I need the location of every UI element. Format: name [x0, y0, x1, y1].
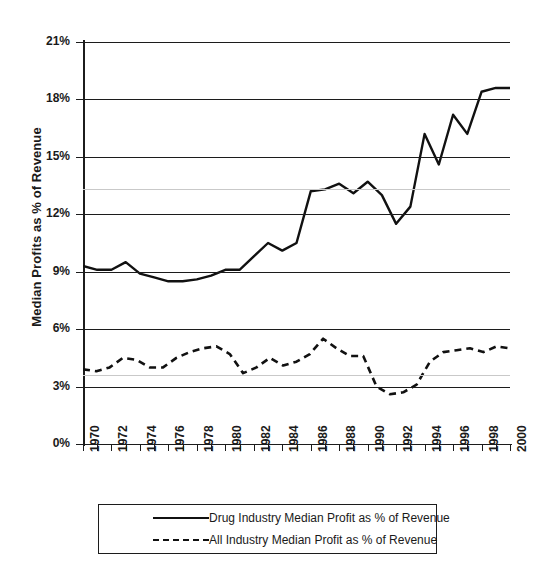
x-tick-label: 1970	[88, 425, 102, 452]
x-tick-mark	[311, 444, 312, 451]
x-tick-mark	[254, 444, 255, 451]
x-tick-mark	[425, 444, 426, 451]
gridline-9	[83, 272, 510, 273]
y-tick-label: 3%	[26, 379, 70, 393]
y-tick-label: 12%	[26, 206, 70, 220]
x-tick-label: 1982	[259, 425, 273, 452]
plot-area	[83, 42, 510, 444]
x-tick-mark	[83, 444, 84, 451]
gridline-18	[83, 99, 510, 100]
x-tick-label: 1980	[230, 425, 244, 452]
y-tick-mark	[76, 329, 84, 330]
legend-label-all-industry: All Industry Median Profit as % of Reven…	[209, 533, 437, 547]
x-tick-label: 1998	[487, 425, 501, 452]
legend-item-all-industry: All Industry Median Profit as % of Reven…	[99, 529, 436, 551]
gridline-faint	[83, 375, 510, 376]
gridline-12	[83, 214, 510, 215]
gridline-15	[83, 157, 510, 158]
y-tick-label: 21%	[26, 34, 70, 48]
y-tick-mark	[76, 214, 84, 215]
y-tick-mark	[76, 99, 84, 100]
x-tick-label: 1978	[202, 425, 216, 452]
x-tick-label: 2000	[515, 425, 529, 452]
x-tick-mark	[197, 444, 198, 451]
y-tick-label: 9%	[26, 264, 70, 278]
x-tick-mark	[225, 444, 226, 451]
chart-figure: Median Profits as % of Revenue 0%3%6%9%1…	[0, 0, 550, 574]
y-tick-mark	[76, 157, 84, 158]
legend-label-drug-industry: Drug Industry Median Profit as % of Reve…	[209, 511, 450, 525]
y-tick-label: 15%	[26, 149, 70, 163]
x-tick-mark	[396, 444, 397, 451]
y-tick-mark	[76, 272, 84, 273]
x-tick-mark	[111, 444, 112, 451]
y-tick-label: 18%	[26, 91, 70, 105]
x-tick-label: 1996	[458, 425, 472, 452]
x-tick-mark	[482, 444, 483, 451]
x-tick-mark	[368, 444, 369, 451]
x-tick-label: 1972	[116, 425, 130, 452]
legend-swatch-dashed-line	[149, 534, 209, 546]
x-tick-label: 1992	[401, 425, 415, 452]
y-tick-mark	[76, 42, 84, 43]
x-tick-mark	[510, 444, 511, 451]
x-tick-mark	[168, 444, 169, 451]
x-tick-mark	[339, 444, 340, 451]
x-tick-label: 1988	[344, 425, 358, 452]
gridline-6	[83, 329, 510, 330]
x-tick-label: 1976	[173, 425, 187, 452]
x-tick-label: 1990	[373, 425, 387, 452]
y-tick-label: 6%	[26, 321, 70, 335]
series-canvas	[83, 42, 510, 444]
chart-legend: Drug Industry Median Profit as % of Reve…	[98, 504, 437, 554]
x-tick-mark	[282, 444, 283, 451]
series-line-drug-industry	[83, 88, 510, 281]
x-tick-mark	[140, 444, 141, 451]
x-tick-label: 1974	[145, 425, 159, 452]
x-tick-mark	[453, 444, 454, 451]
y-tick-mark	[76, 387, 84, 388]
x-tick-label: 1986	[316, 425, 330, 452]
gridline-21	[83, 42, 510, 43]
legend-item-drug-industry: Drug Industry Median Profit as % of Reve…	[99, 507, 436, 529]
y-tick-label: 0%	[26, 436, 70, 450]
x-tick-label: 1984	[287, 425, 301, 452]
gridline-faint	[83, 189, 510, 190]
gridline-3	[83, 387, 510, 388]
legend-swatch-solid-line	[149, 512, 209, 524]
x-tick-label: 1994	[430, 425, 444, 452]
